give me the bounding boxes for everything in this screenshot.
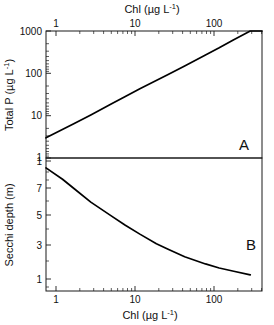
- panel-b-ytick-label-3: 3: [36, 240, 42, 251]
- panel-a-ytick-label-1000: 1000: [20, 26, 43, 37]
- panel-b-label: B: [246, 236, 256, 253]
- panel-b-bottom-axis-title: Chl (µg L-1): [122, 308, 177, 321]
- panel-a-ytick-label-100: 100: [25, 68, 42, 79]
- panel-a-xtick-label-100: 100: [206, 18, 223, 29]
- panel-b-data-curve: [46, 168, 250, 275]
- panel-a-data-line: [46, 31, 262, 138]
- panel-b-xtick-label-100: 100: [206, 294, 223, 305]
- panel-b-xtick-label-10: 10: [129, 294, 141, 305]
- panel-b-xtick-label-1: 1: [53, 294, 59, 305]
- panel-a-label: A: [239, 136, 249, 153]
- figure-container: Chl (µg L-1) 1 10 100 Total P (µg L-1) 1…: [0, 0, 274, 325]
- panel-b: Secchi depth (m) 1 7 5 3 1: [3, 156, 262, 321]
- panel-a-y-axis-title: Total P (µg L-1): [2, 59, 15, 131]
- panel-b-y-axis-title: Secchi depth (m): [3, 183, 15, 266]
- panel-a-top-axis-title: Chl (µg L-1): [124, 2, 179, 15]
- panel-a-xtick-label-10: 10: [129, 18, 141, 29]
- panel-a: Chl (µg L-1) 1 10 100 Total P (µg L-1) 1…: [2, 2, 262, 163]
- figure-svg: Chl (µg L-1) 1 10 100 Total P (µg L-1) 1…: [0, 0, 274, 325]
- panel-b-ytick-label-1: 1: [36, 274, 42, 285]
- panel-a-y-major-ticks: [46, 31, 51, 158]
- panel-a-ytick-label-10: 10: [31, 110, 43, 121]
- panel-b-ytick-label-5: 5: [36, 210, 42, 221]
- panel-a-xtick-label-1: 1: [53, 18, 59, 29]
- panel-b-ytick-label-7: 7: [36, 183, 42, 194]
- panel-b-ytick-label-10: 1: [36, 156, 42, 167]
- panel-a-plot-frame: [46, 31, 262, 158]
